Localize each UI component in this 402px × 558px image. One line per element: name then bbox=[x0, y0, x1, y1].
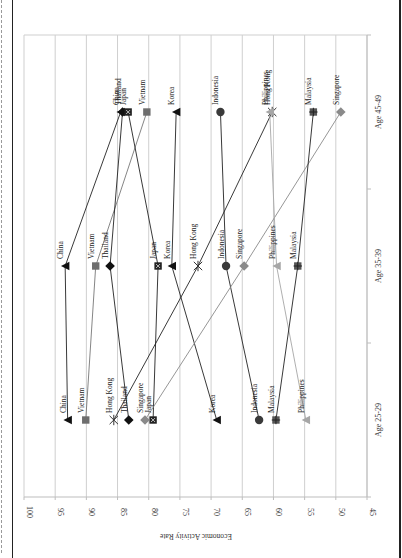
point-label: Philippines bbox=[261, 71, 270, 105]
marker-japan bbox=[154, 262, 161, 269]
point-label: Thailand bbox=[101, 232, 110, 259]
marker-japan bbox=[124, 108, 131, 115]
marker-singapore bbox=[336, 107, 346, 117]
point-label: Korea bbox=[167, 86, 176, 105]
marker-thailand bbox=[105, 261, 115, 271]
point-label: Philippines bbox=[297, 379, 306, 413]
point-label: Japan bbox=[119, 88, 128, 105]
marker-vietnam bbox=[143, 108, 150, 115]
value-tick-label: 90 bbox=[87, 508, 96, 516]
point-label: Japan bbox=[144, 396, 153, 413]
marker-malaysia bbox=[309, 108, 317, 116]
point-labels: ChinaChinaChinaVietnamVietnamVietnamThai… bbox=[56, 70, 341, 413]
marker-vietnam bbox=[82, 416, 89, 423]
point-label: Hong Kong bbox=[189, 224, 198, 259]
marker-singapore bbox=[239, 261, 249, 271]
value-tick-label: 75 bbox=[181, 508, 190, 516]
series-line-korea bbox=[172, 112, 217, 420]
category-tick-label: Age 45-49 bbox=[374, 95, 383, 129]
value-tick-label: 55 bbox=[306, 508, 315, 516]
marker-philippines bbox=[302, 416, 310, 424]
marker-hong-kong bbox=[110, 415, 118, 425]
point-label: Japan bbox=[149, 242, 158, 259]
marker-indonesia bbox=[255, 416, 263, 424]
point-label: China bbox=[56, 240, 65, 259]
value-tick-label: 65 bbox=[243, 508, 252, 516]
value-tick-label: 100 bbox=[25, 506, 34, 518]
point-label: Singapore bbox=[136, 382, 145, 413]
category-tick-label: Age 35-39 bbox=[374, 249, 383, 283]
point-label: Philippines bbox=[268, 225, 277, 259]
marker-malaysia bbox=[294, 262, 302, 270]
point-label: Singapore bbox=[235, 228, 244, 259]
grid-layer bbox=[24, 35, 367, 497]
point-label: China bbox=[59, 394, 68, 413]
marker-hong-kong bbox=[194, 261, 202, 271]
point-label: Indonesia bbox=[250, 383, 259, 413]
point-label: Malaysia bbox=[267, 385, 276, 413]
point-label: Thailand bbox=[120, 386, 129, 413]
series-line-japan bbox=[128, 112, 158, 420]
marker-indonesia bbox=[216, 108, 224, 116]
point-label: Singapore bbox=[332, 74, 341, 105]
point-label: Hong Kong bbox=[105, 378, 114, 413]
value-tick-label: 60 bbox=[274, 508, 283, 516]
marker-korea bbox=[213, 416, 221, 424]
point-label: Vietnam bbox=[77, 387, 86, 413]
axes: 1009590858075706560555045Age 25-29Age 35… bbox=[24, 35, 383, 518]
value-tick-label: 80 bbox=[150, 508, 159, 516]
marker-indonesia bbox=[222, 262, 230, 270]
marker-malaysia bbox=[272, 416, 280, 424]
point-label: Indonesia bbox=[211, 75, 220, 105]
value-tick-label: 45 bbox=[368, 508, 377, 516]
marker-thailand bbox=[124, 415, 134, 425]
point-label: Indonesia bbox=[217, 229, 226, 259]
value-tick-label: 85 bbox=[119, 508, 128, 516]
series-markers bbox=[61, 107, 346, 425]
point-label: Vietnam bbox=[87, 233, 96, 259]
value-tick-label: 50 bbox=[337, 508, 346, 516]
point-label: Korea bbox=[163, 240, 172, 259]
point-label: Korea bbox=[208, 394, 217, 413]
value-tick-label: 95 bbox=[56, 508, 65, 516]
marker-japan bbox=[149, 416, 156, 423]
point-label: Malaysia bbox=[289, 231, 298, 259]
marker-vietnam bbox=[92, 262, 99, 269]
category-tick-label: Age 25-29 bbox=[374, 403, 383, 437]
value-tick-label: 70 bbox=[212, 508, 221, 516]
point-label: Malaysia bbox=[304, 77, 313, 105]
y-axis-title: Economic Activity Rate bbox=[159, 532, 232, 541]
point-label: Vietnam bbox=[138, 79, 147, 105]
